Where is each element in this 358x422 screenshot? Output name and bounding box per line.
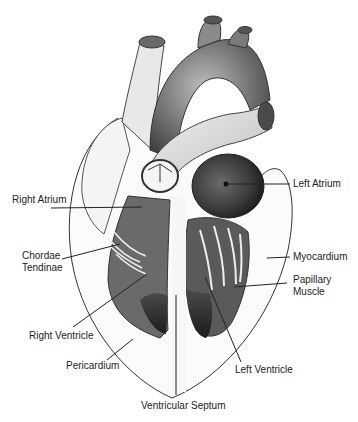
label-left-ventricle: Left Ventricle — [235, 364, 293, 376]
label-right-ventricle: Right Ventricle — [29, 330, 93, 342]
label-ventricular-septum: Ventricular Septum — [141, 400, 226, 412]
label-left-atrium: Left Atrium — [293, 178, 341, 190]
left-atrium-chamber — [192, 154, 264, 218]
label-papillary-muscle-1: Papillary — [293, 274, 331, 286]
septum-band — [172, 196, 186, 392]
heart-illustration — [0, 0, 358, 422]
label-pericardium: Pericardium — [66, 360, 119, 372]
label-chordae-tendinae-2: Tendinae — [22, 262, 63, 274]
label-right-atrium: Right Atrium — [12, 194, 66, 206]
label-papillary-muscle-2: Muscle — [293, 286, 325, 298]
label-chordae-tendinae-1: Chordae — [22, 250, 60, 262]
heart-diagram: Right Atrium Chordae Tendinae Right Vent… — [0, 0, 358, 422]
label-myocardium: Myocardium — [293, 251, 347, 263]
